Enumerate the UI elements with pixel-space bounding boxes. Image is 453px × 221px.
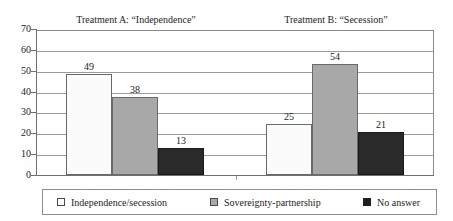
bar bbox=[158, 148, 204, 175]
x-axis-line bbox=[36, 175, 434, 176]
bar-chart: Treatment A: “Independence” Treatment B:… bbox=[0, 0, 453, 221]
bar bbox=[358, 132, 404, 175]
legend-label-sovereignty-partnership: Sovereignty-partnership bbox=[224, 197, 321, 208]
x-axis-category-tick bbox=[236, 176, 237, 180]
bar bbox=[312, 64, 358, 175]
bar-value-label: 21 bbox=[358, 119, 404, 130]
y-axis-tick bbox=[31, 112, 37, 113]
legend-swatch-icon-no-answer bbox=[363, 198, 371, 206]
legend-swatch-icon-independence-secession bbox=[57, 198, 65, 206]
bars-layer: 493813255421 bbox=[37, 31, 433, 175]
bar-value-label: 13 bbox=[158, 135, 204, 146]
y-axis-tick-label: 30 bbox=[3, 107, 31, 117]
legend-swatch-icon-sovereignty-partnership bbox=[210, 198, 218, 206]
legend-label-no-answer: No answer bbox=[377, 197, 420, 208]
y-axis-tick bbox=[31, 50, 37, 51]
y-axis-tick bbox=[31, 71, 37, 72]
y-axis-tick-label: 10 bbox=[3, 149, 31, 159]
y-axis-tick-label: 0 bbox=[3, 170, 31, 180]
y-axis-tick-label: 40 bbox=[3, 87, 31, 97]
group-title-treatment-a: Treatment A: “Independence” bbox=[36, 14, 236, 26]
bar-value-label: 25 bbox=[266, 111, 312, 122]
bar-value-label: 38 bbox=[112, 84, 158, 95]
bar bbox=[266, 124, 312, 175]
y-axis-tick-label: 60 bbox=[3, 45, 31, 55]
y-axis-tick bbox=[31, 154, 37, 155]
y-axis-tick-label: 50 bbox=[3, 66, 31, 76]
legend-label-independence-secession: Independence/secession bbox=[71, 197, 167, 208]
y-axis-tick-label: 70 bbox=[3, 24, 31, 34]
y-axis-tick bbox=[31, 92, 37, 93]
y-axis-labels: 010203040506070 bbox=[0, 0, 31, 221]
legend-entry-no-answer[interactable]: No answer bbox=[363, 195, 420, 209]
y-axis-tick-label: 20 bbox=[3, 128, 31, 138]
bar-value-label: 54 bbox=[312, 51, 358, 62]
legend-entry-independence-secession[interactable]: Independence/secession bbox=[57, 195, 167, 209]
y-axis-tick bbox=[31, 29, 37, 30]
legend: Independence/secession Sovereignty-partn… bbox=[42, 189, 437, 215]
bar-value-label: 49 bbox=[66, 61, 112, 72]
legend-entry-sovereignty-partnership[interactable]: Sovereignty-partnership bbox=[210, 195, 321, 209]
y-axis-tick bbox=[31, 133, 37, 134]
y-axis-tick bbox=[31, 175, 37, 176]
group-title-treatment-b: Treatment B: “Secession” bbox=[236, 14, 436, 26]
bar bbox=[66, 74, 112, 175]
bar bbox=[112, 97, 158, 175]
